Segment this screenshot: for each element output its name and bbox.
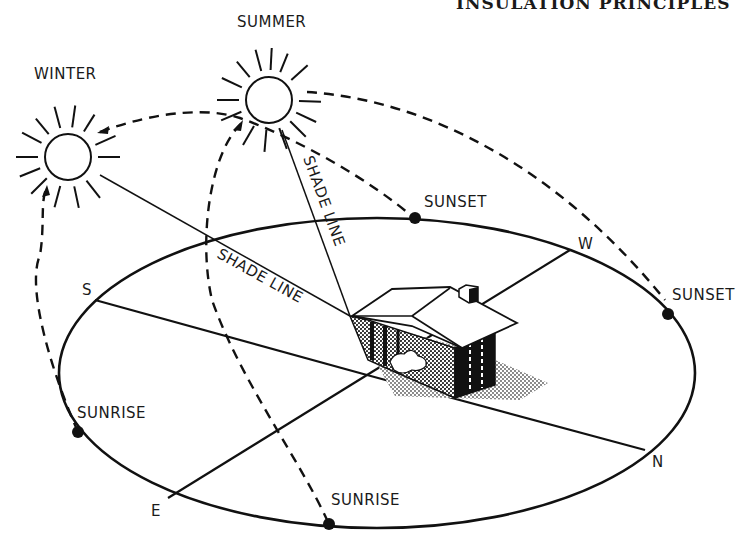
summer-sunset-label: SUNSET xyxy=(424,193,487,211)
winter-sunrise-dot xyxy=(72,426,84,438)
compass-south-label: S xyxy=(82,281,92,299)
sun-path-diagram: INSULATION PRINCIPLES xyxy=(0,0,746,537)
compass-north-label: N xyxy=(652,453,664,471)
compass-axes xyxy=(95,250,645,498)
winter-shade-line-label: SHADE LINE xyxy=(214,245,306,307)
summer-sunset-dot xyxy=(409,212,421,224)
compass-west-label: W xyxy=(578,235,593,253)
winter-sunrise-label: SUNRISE xyxy=(77,404,146,422)
sun-paths xyxy=(36,92,665,522)
summer-sunrise-dot xyxy=(323,518,335,530)
winter-sunset-label: SUNSET xyxy=(672,286,735,304)
house-illustration xyxy=(350,285,517,398)
winter-sunset-dot xyxy=(662,308,674,320)
page-header: INSULATION PRINCIPLES xyxy=(456,0,731,13)
summer-label: SUMMER xyxy=(237,13,306,31)
compass-east-label: E xyxy=(151,502,161,520)
horizon-ellipse xyxy=(59,218,695,528)
summer-sunrise-label: SUNRISE xyxy=(331,491,400,509)
header-title: INSULATION PRINCIPLES xyxy=(456,0,731,13)
summer-sun-icon xyxy=(217,48,321,152)
winter-label: WINTER xyxy=(34,65,97,83)
winter-sun-icon xyxy=(16,106,120,208)
